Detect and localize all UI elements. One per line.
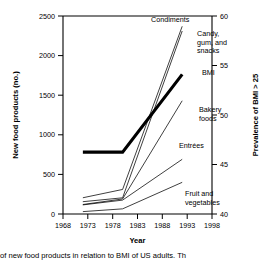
y-axis-title: New food products (no.) (11, 71, 20, 159)
figure-caption: of new food products in relation to BMI … (0, 251, 273, 260)
ytick-label-500: 500 (43, 170, 55, 179)
xtick-label-1973: 1973 (80, 221, 96, 230)
y2-axis-title: Prevalence of BMI > 25 (251, 73, 260, 156)
xtick-label-1968: 1968 (55, 221, 71, 230)
plot-frame (63, 16, 212, 214)
ytick-label-2000: 2000 (39, 51, 55, 60)
xtick-label-1993: 1993 (179, 221, 195, 230)
x-axis-ticks (63, 214, 212, 219)
annotation-bmi: BMI (202, 68, 215, 77)
series-line-candy-gum-snacks (83, 31, 182, 202)
series-lines (83, 26, 182, 211)
xtick-label-1998: 1998 (204, 221, 220, 230)
annotation-entrees: Entrées (179, 141, 204, 150)
annotation-candy-line3: snacks (197, 46, 220, 55)
annotation-fruit-line2: vegetables (185, 198, 220, 207)
series-line-fruit-and-vegetables (83, 182, 182, 211)
ytick-label-0: 0 (51, 210, 55, 219)
x-axis-title: Year (129, 236, 145, 245)
annotation-condiments: Condiments (151, 15, 190, 24)
y2tick-label-55: 55 (220, 61, 228, 70)
y2tick-label-45: 45 (220, 160, 228, 169)
xtick-label-1983: 1983 (130, 221, 146, 230)
y2tick-label-40: 40 (220, 210, 228, 219)
x-axis-tick-labels: 1968 1973 1978 1983 1988 1993 1998 (55, 221, 220, 230)
xtick-label-1988: 1988 (154, 221, 170, 230)
ytick-label-1000: 1000 (39, 130, 55, 139)
xtick-label-1978: 1978 (105, 221, 121, 230)
series-line-bmi-main (83, 74, 182, 152)
annotation-bakery-line2: foods (199, 114, 217, 123)
ytick-label-2500: 2500 (39, 12, 55, 21)
left-axis-ticks (58, 16, 63, 214)
ytick-label-1500: 1500 (39, 91, 55, 100)
left-axis-tick-labels: 0 500 1000 1500 2000 2500 (39, 12, 55, 219)
series-line-condiments (83, 26, 182, 197)
chart-figure: 0 500 1000 1500 2000 2500 40 45 50 55 60 (0, 0, 273, 260)
y2tick-label-60: 60 (220, 12, 228, 21)
chart-svg: 0 500 1000 1500 2000 2500 40 45 50 55 60 (0, 0, 273, 260)
series-annotations: Condiments Candy, gum, and snacks BMI Ba… (151, 15, 227, 207)
